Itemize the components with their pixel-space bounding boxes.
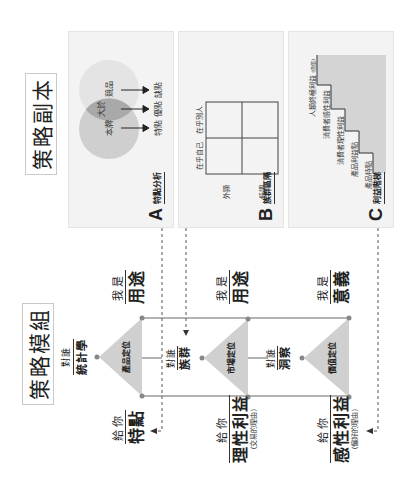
give-stage-3: 給你 感性利益 (偏好的理由) — [317, 384, 360, 474]
target-stage-1: 對誰 統計學 — [60, 332, 89, 382]
i-am-stage-2: 我是 用途 — [216, 262, 250, 312]
dashed-connector-feature — [156, 228, 162, 431]
dashed-connector-benefit — [372, 228, 378, 431]
diagram-canvas: 策略副本 本牌 大於 競品 特點 優點 缺點 A 特點分析 — [0, 0, 414, 480]
target-stage-3: 對誰 洞察 — [266, 333, 292, 383]
give-stage-1: 給你 特點 — [112, 402, 146, 452]
i-am-stage-3: 我是 意義 — [317, 262, 351, 312]
arrowhead-benefit — [366, 428, 373, 434]
label-value-positioning: 價值定位 — [326, 333, 337, 383]
label-market-positioning: 市場定位 — [225, 333, 236, 383]
target-stage-2: 對誰 族群 — [166, 333, 192, 383]
label-product-positioning: 產品定位 — [120, 332, 131, 382]
arrowhead-feature — [150, 428, 157, 434]
give-stage-2: 給你 理性利益 (交易的理由) — [216, 384, 259, 474]
i-am-stage-1: 我是 用途 — [112, 262, 146, 312]
